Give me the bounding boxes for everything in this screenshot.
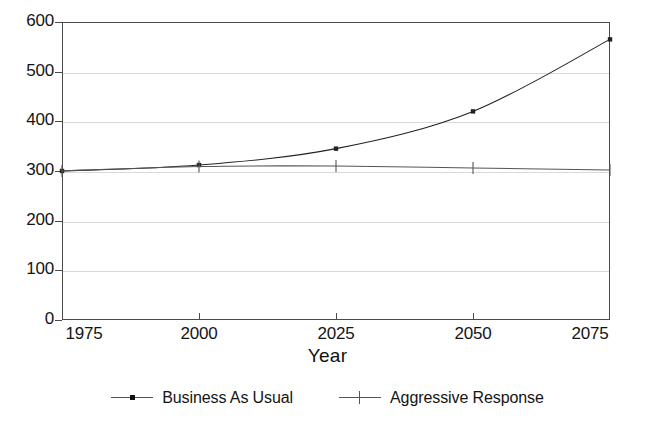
legend-label: Business As Usual	[162, 389, 293, 407]
y-tick-mark	[55, 72, 62, 73]
chart-legend: Business As Usual Aggressive Response	[0, 389, 655, 407]
x-tick-label: 2075	[571, 324, 608, 344]
y-tick-label: 0	[0, 309, 54, 329]
x-tick-label: 2050	[454, 324, 491, 344]
legend-label: Aggressive Response	[390, 389, 544, 407]
x-tick-mark	[473, 313, 474, 320]
y-tick-mark	[55, 171, 62, 172]
legend-item-aggressive-response: Aggressive Response	[339, 389, 544, 407]
y-tick-mark	[55, 22, 62, 23]
y-tick-mark	[55, 270, 62, 271]
square-marker-icon	[111, 391, 153, 405]
x-tick-label: 2025	[317, 324, 354, 344]
x-axis-label: Year	[0, 345, 655, 367]
y-tick-label: 200	[0, 210, 54, 230]
x-tick-label: 1975	[65, 324, 102, 344]
y-tick-label: 500	[0, 61, 54, 81]
y-tick-label: 100	[0, 259, 54, 279]
y-tick-mark	[55, 121, 62, 122]
x-tick-mark	[336, 313, 337, 320]
x-tick-label: 2000	[180, 324, 217, 344]
legend-item-business-as-usual: Business As Usual	[111, 389, 293, 407]
line-chart: 0100200300400500600 19752000202520502075…	[0, 0, 655, 425]
y-tick-label: 400	[0, 110, 54, 130]
x-tick-mark	[199, 313, 200, 320]
y-tick-label: 300	[0, 160, 54, 180]
plus-marker-icon	[339, 391, 381, 405]
y-tick-mark	[55, 221, 62, 222]
y-tick-label: 600	[0, 11, 54, 31]
y-tick-mark	[55, 320, 62, 321]
